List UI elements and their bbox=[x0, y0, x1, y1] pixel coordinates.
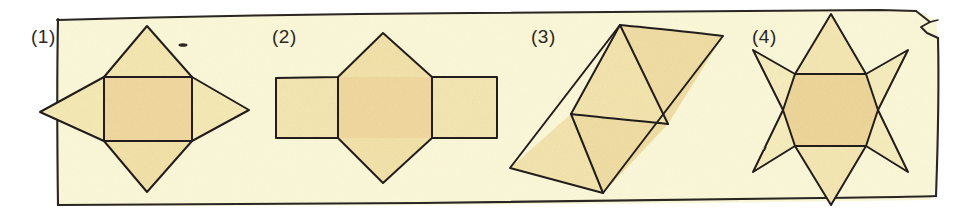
figure-sheet: (1) (2) (3) (4) bbox=[0, 0, 961, 212]
figure-canvas bbox=[0, 0, 961, 212]
panel-1-label: (1) bbox=[31, 26, 56, 48]
panel-4-label: (4) bbox=[752, 26, 777, 48]
p2-square-right bbox=[432, 77, 497, 138]
ink-speck bbox=[179, 43, 188, 47]
p2-square-left bbox=[276, 78, 338, 138]
p4-center-hexagon bbox=[783, 74, 878, 146]
panel-2-label: (2) bbox=[272, 26, 297, 48]
panel-3-label: (3) bbox=[531, 26, 556, 48]
p2-square-center bbox=[338, 77, 432, 138]
p1-center-square bbox=[104, 77, 192, 141]
